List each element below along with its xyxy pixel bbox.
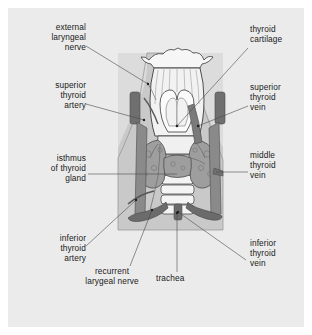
label-inferior-thyroid-vein: inferior thyroid vein (250, 238, 306, 269)
inferior-thyroid-vein-left (128, 202, 168, 222)
label-middle-thyroid-vein: middle thyroid vein (250, 150, 306, 181)
label-superior-thyroid-artery: superior thyroid artery (16, 80, 86, 111)
label-superior-thyroid-vein: superior thyroid vein (250, 82, 306, 113)
label-trachea: trachea (156, 273, 212, 283)
label-external-laryngeal-nerve: external laryngeal nerve (16, 22, 86, 53)
label-isthmus-of-thyroid-gland: isthmus of thyroid gland (12, 153, 86, 184)
common-carotid-right (215, 92, 225, 124)
common-carotid-left (130, 92, 140, 124)
label-recurrent-laryngeal-nerve: recurrent larygeal nerve (60, 266, 164, 286)
label-thyroid-cartilage: thyroid cartilage (250, 24, 306, 44)
label-inferior-thyroid-artery: inferior thyroid artery (16, 233, 86, 264)
internal-jugular-left (135, 122, 147, 216)
anatomy-figure: external laryngeal nerve superior thyroi… (8, 8, 304, 327)
